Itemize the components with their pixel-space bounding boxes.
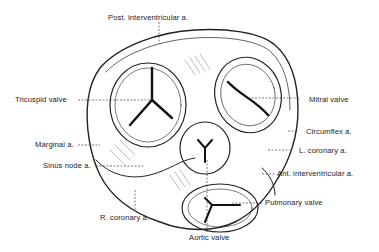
pulmonary-valve — [182, 184, 258, 232]
heart-valves-illustration — [0, 0, 379, 252]
label-tricuspid-valve: Tricuspid valve — [15, 96, 67, 104]
label-sinus-node: Sinus node a. — [43, 162, 91, 170]
label-aortic-valve: Aortic valve — [189, 234, 229, 242]
label-post-interventricular: Post. interventricular a. — [108, 14, 188, 22]
label-r-coronary: R. coronary a. — [100, 214, 149, 222]
label-l-coronary: L. coronary a. — [299, 147, 347, 155]
label-pulmonary-valve: Pulmonary valve — [265, 199, 323, 207]
label-marginal: Marginal a. — [35, 141, 74, 149]
label-mitral-valve: Mitral valve — [309, 96, 349, 104]
label-ant-interventricular: Ant. interventricular a. — [277, 170, 353, 178]
label-circumflex: Circumflex a. — [306, 128, 352, 136]
